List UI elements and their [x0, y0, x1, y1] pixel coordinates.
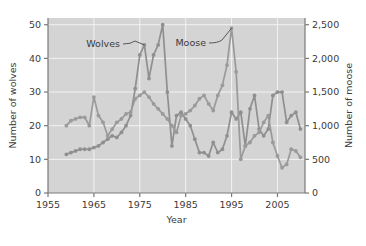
data-point-wolves — [175, 114, 179, 118]
data-point-wolves — [193, 137, 197, 141]
data-point-moose — [110, 127, 114, 131]
data-point-wolves — [78, 147, 82, 151]
data-point-wolves — [133, 87, 137, 91]
y-axis-tick-label: 10 — [29, 154, 41, 165]
data-point-wolves — [225, 134, 229, 138]
data-point-wolves — [276, 90, 280, 94]
data-point-wolves — [211, 141, 215, 145]
data-point-wolves — [248, 107, 252, 111]
data-point-wolves — [207, 154, 211, 158]
data-point-wolves — [230, 110, 234, 114]
data-point-moose — [138, 94, 142, 98]
data-point-moose — [184, 112, 188, 116]
data-point-wolves — [165, 90, 169, 94]
data-point-wolves — [124, 124, 128, 128]
data-point-wolves — [271, 94, 275, 98]
x-axis-tick-label: 1985 — [174, 199, 198, 210]
data-point-moose — [198, 97, 202, 101]
data-point-wolves — [106, 137, 110, 141]
y2-axis-tick-label: 0 — [312, 187, 318, 198]
data-point-moose — [115, 120, 119, 124]
data-point-moose — [124, 112, 128, 116]
data-point-moose — [285, 162, 289, 166]
data-point-wolves — [198, 151, 202, 155]
data-point-wolves — [262, 134, 266, 138]
data-point-moose — [83, 115, 87, 119]
data-point-moose — [294, 149, 298, 153]
data-point-wolves — [147, 77, 151, 81]
data-point-wolves — [299, 127, 303, 131]
data-point-wolves — [234, 117, 238, 121]
data-point-moose — [87, 124, 91, 128]
y-axis-tick-label: 30 — [29, 86, 41, 97]
data-point-moose — [165, 117, 169, 121]
data-point-wolves — [239, 110, 243, 114]
data-point-moose — [78, 115, 82, 119]
y-axis-title: Number of wolves — [7, 62, 18, 148]
data-point-wolves — [161, 23, 165, 27]
data-point-moose — [207, 102, 211, 106]
data-point-moose — [253, 134, 257, 138]
y2-axis-tick-label: 2,000 — [312, 53, 339, 64]
data-point-wolves — [202, 151, 206, 155]
data-point-moose — [280, 166, 284, 170]
data-point-wolves — [97, 144, 101, 148]
data-point-wolves — [280, 90, 284, 94]
y2-axis-tick-label: 1,000 — [312, 120, 339, 131]
y2-axis-title: Number of moose — [343, 63, 354, 148]
y2-axis-tick-label: 500 — [312, 154, 330, 165]
data-point-wolves — [253, 94, 257, 98]
data-point-wolves — [69, 151, 73, 155]
data-point-moose — [120, 117, 124, 121]
data-point-moose — [129, 110, 133, 114]
data-point-wolves — [188, 124, 192, 128]
x-axis-tick-label: 1975 — [128, 199, 152, 210]
data-point-moose — [142, 90, 146, 94]
data-point-wolves — [120, 131, 124, 135]
series-label-moose: Moose — [175, 37, 206, 48]
y-axis-tick-label: 20 — [29, 120, 41, 131]
data-point-moose — [202, 94, 206, 98]
data-point-moose — [101, 120, 105, 124]
data-point-wolves — [184, 117, 188, 121]
chart-figure: 0102030405005001,0001,5002,0002,50019551… — [0, 0, 366, 246]
data-point-wolves — [289, 114, 293, 118]
data-point-wolves — [152, 53, 156, 57]
data-point-wolves — [115, 136, 119, 140]
x-axis-tick-label: 1955 — [36, 199, 60, 210]
data-point-moose — [248, 141, 252, 145]
x-axis-tick-label: 1965 — [82, 199, 106, 210]
data-point-wolves — [179, 110, 183, 114]
data-point-moose — [152, 102, 156, 106]
data-point-moose — [188, 109, 192, 113]
data-point-moose — [211, 109, 215, 113]
data-point-moose — [97, 114, 101, 118]
data-point-wolves — [156, 43, 160, 47]
data-point-moose — [299, 155, 303, 159]
data-point-moose — [74, 117, 78, 121]
data-point-wolves — [170, 144, 174, 148]
data-point-wolves — [87, 147, 91, 151]
data-point-wolves — [138, 53, 142, 57]
y-axis-tick-label: 50 — [29, 19, 41, 30]
data-point-moose — [193, 104, 197, 108]
x-axis-title: Year — [165, 214, 186, 225]
y-axis-tick-label: 40 — [29, 53, 41, 64]
data-point-moose — [147, 95, 151, 99]
data-point-wolves — [110, 134, 114, 138]
data-point-moose — [216, 94, 220, 98]
data-point-moose — [69, 119, 73, 123]
data-point-wolves — [220, 147, 224, 151]
data-point-moose — [271, 141, 275, 145]
y-axis-tick-label: 0 — [35, 187, 41, 198]
data-point-moose — [175, 131, 179, 135]
data-point-wolves — [216, 151, 220, 155]
x-axis-tick-label: 1995 — [219, 199, 243, 210]
data-point-wolves — [92, 146, 96, 150]
data-point-wolves — [74, 149, 78, 153]
data-point-moose — [92, 95, 96, 99]
data-point-moose — [266, 114, 270, 118]
series-label-wolves: Wolves — [86, 38, 120, 49]
data-point-wolves — [294, 110, 298, 114]
data-point-wolves — [129, 114, 133, 118]
